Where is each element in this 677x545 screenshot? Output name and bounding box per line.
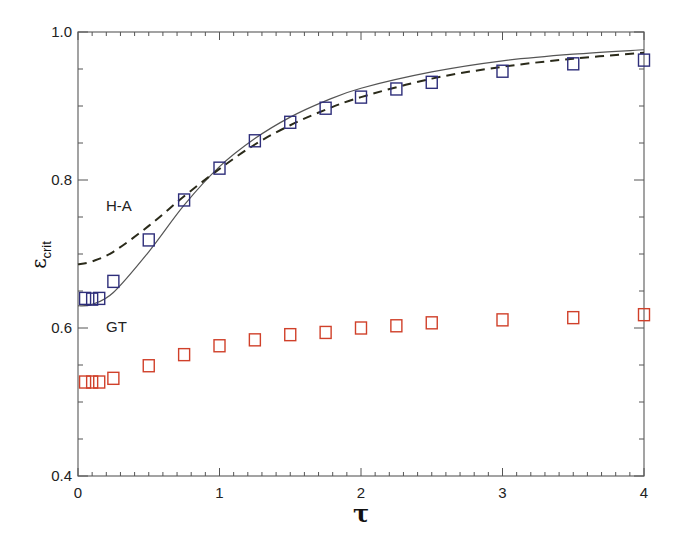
gt-marker [568, 312, 579, 324]
gt-marker [179, 349, 190, 361]
gt-marker [320, 326, 331, 338]
gt-marker [80, 376, 91, 388]
ha-marker [80, 292, 91, 304]
gt-marker [391, 320, 402, 332]
annotation-h-a: H-A [106, 197, 132, 214]
x-tick-label: 3 [498, 484, 506, 501]
y-tick-label: 0.8 [51, 171, 72, 188]
data-markers [80, 54, 650, 388]
gt-marker [108, 372, 119, 384]
gt-marker [356, 322, 367, 334]
plot-frame [78, 32, 644, 476]
solid-curve [78, 50, 644, 306]
y-tick-label: 1.0 [51, 23, 72, 40]
x-tick-label: 1 [215, 484, 223, 501]
x-axis-label: τ [353, 499, 369, 528]
y-axis-label: εcrit [27, 241, 54, 269]
ha-marker [108, 275, 119, 287]
y-axis-symbol: ε [27, 258, 51, 268]
curves [78, 50, 644, 306]
y-axis-subscript: crit [39, 241, 54, 259]
y-tick-label: 0.6 [51, 319, 72, 336]
chart-canvas: 012340.40.60.81.0 H-A GT τ εcrit [0, 0, 677, 545]
x-tick-label: 4 [640, 484, 648, 501]
ha-marker [320, 102, 331, 114]
gt-marker [214, 340, 225, 352]
y-axis-label-group: εcrit [27, 241, 54, 269]
annotation-gt: GT [106, 318, 127, 335]
x-tick-label: 0 [74, 484, 82, 501]
y-tick-label: 0.4 [51, 467, 72, 484]
gt-marker [94, 376, 105, 388]
gt-marker [249, 334, 260, 346]
gt-marker [426, 317, 437, 329]
gt-marker [143, 360, 154, 372]
gt-marker [285, 329, 296, 341]
gt-marker [497, 314, 508, 326]
ha-marker [143, 234, 154, 246]
gt-marker [87, 376, 98, 388]
